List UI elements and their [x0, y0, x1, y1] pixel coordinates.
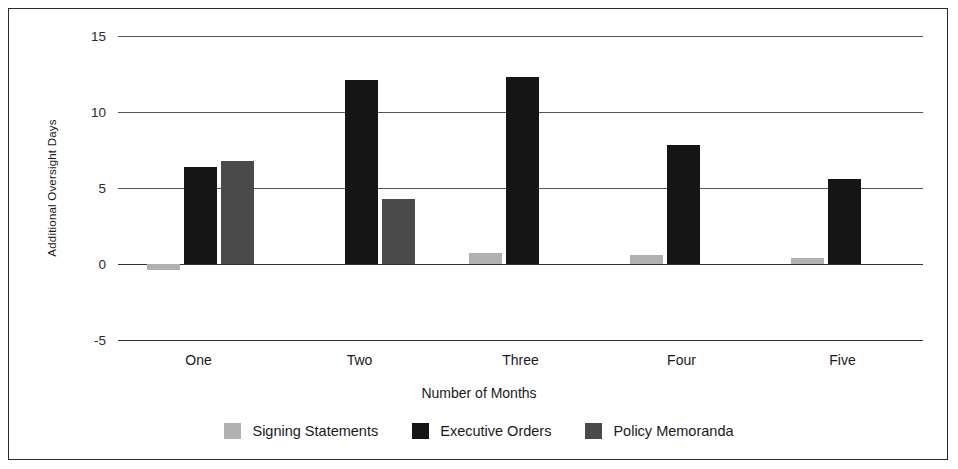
y-axis-title: Additional Oversight Days — [46, 119, 58, 256]
bar-group: Four — [601, 36, 762, 340]
bar — [791, 258, 824, 264]
legend-item: Executive Orders — [412, 423, 551, 439]
bar — [667, 145, 700, 264]
x-tick-label: One — [185, 352, 211, 368]
y-tick-label: 5 — [98, 181, 106, 196]
legend-item: Signing Statements — [224, 423, 378, 439]
chart-figure: Additional Oversight Days 151050-5 OneTw… — [0, 0, 958, 469]
bars — [118, 36, 279, 340]
bar-group: Three — [440, 36, 601, 340]
bar-groups: OneTwoThreeFourFive — [118, 36, 923, 340]
bars — [762, 36, 923, 340]
bar — [382, 199, 415, 264]
legend-label: Signing Statements — [252, 423, 378, 439]
bars — [601, 36, 762, 340]
y-tick-label: -5 — [94, 333, 106, 348]
legend-swatch-icon — [412, 423, 429, 439]
bar — [345, 80, 378, 264]
legend-label: Executive Orders — [440, 423, 551, 439]
legend-item: Policy Memoranda — [585, 423, 733, 439]
bars — [279, 36, 440, 340]
bar — [184, 167, 217, 264]
y-tick-label: 15 — [91, 29, 106, 44]
bar — [147, 264, 180, 270]
x-tick-label: Four — [667, 352, 696, 368]
bar-group: Five — [762, 36, 923, 340]
bar — [630, 255, 663, 264]
legend: Signing StatementsExecutive OrdersPolicy… — [0, 423, 958, 439]
x-tick-label: Two — [347, 352, 373, 368]
bars — [440, 36, 601, 340]
gridline--5 — [118, 340, 923, 341]
bar — [506, 77, 539, 264]
y-tick-label: 10 — [91, 105, 106, 120]
bar-group: Two — [279, 36, 440, 340]
bar — [828, 179, 861, 264]
plot-area: 151050-5 OneTwoThreeFourFive — [118, 36, 923, 340]
x-axis-title: Number of Months — [0, 385, 958, 401]
bar — [221, 161, 254, 264]
legend-label: Policy Memoranda — [613, 423, 733, 439]
bar — [469, 253, 502, 264]
x-tick-label: Three — [502, 352, 539, 368]
y-tick-label: 0 — [98, 257, 106, 272]
legend-swatch-icon — [585, 423, 602, 439]
bar-group: One — [118, 36, 279, 340]
legend-swatch-icon — [224, 423, 241, 439]
x-tick-label: Five — [829, 352, 855, 368]
